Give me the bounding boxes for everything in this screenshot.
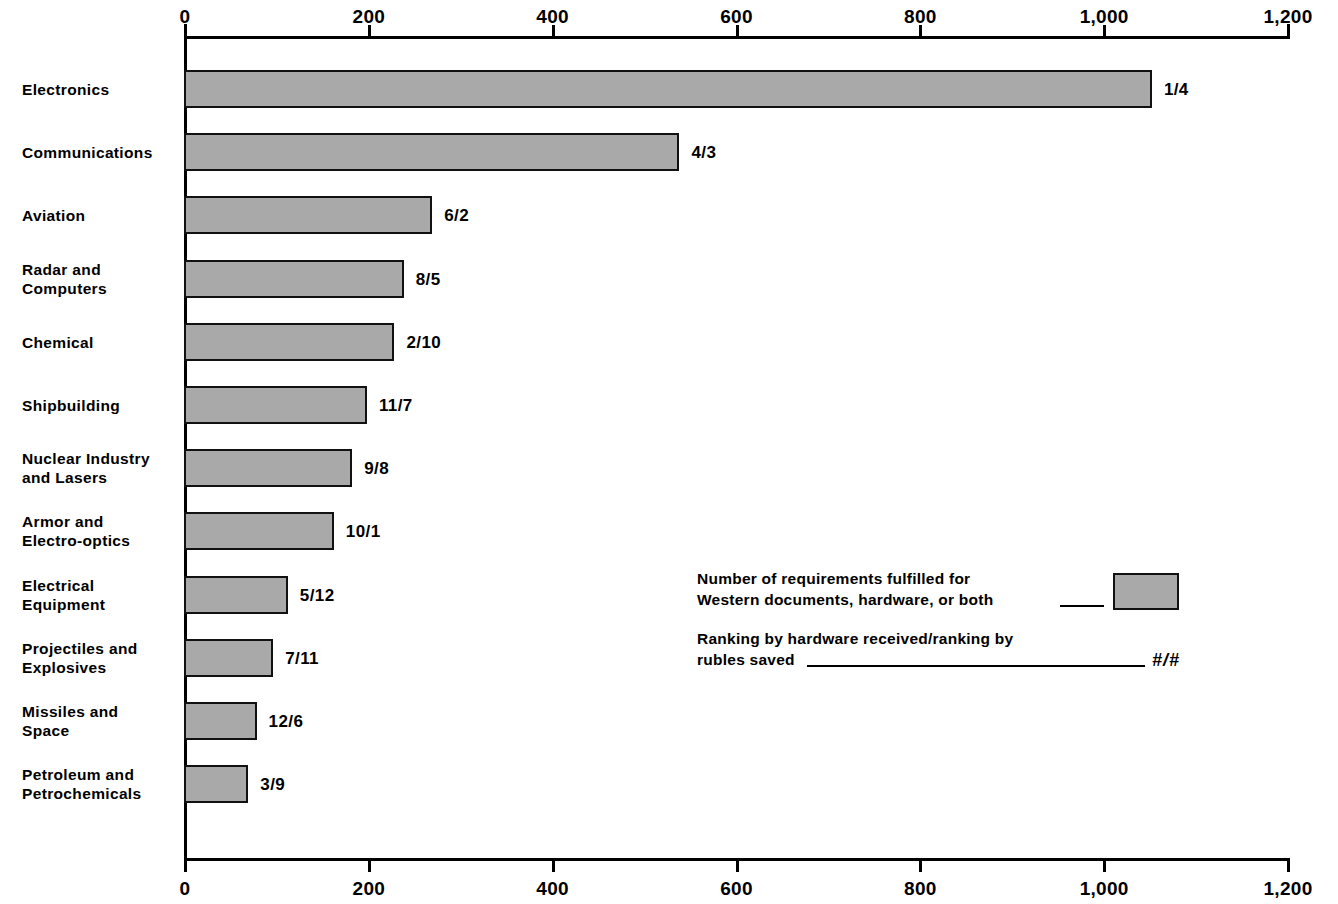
bar-chart: 02004006008001,0001,200 02004006008001,0… [0, 0, 1338, 904]
category-label: Nuclear Industry and Lasers [22, 449, 150, 487]
bar [184, 449, 352, 487]
bar [184, 70, 1152, 108]
bar-row: Shipbuilding11/7 [0, 386, 1338, 424]
legend-leader-line-1 [1060, 605, 1104, 607]
bottom-tick-mark [919, 858, 922, 872]
bottom-tick-label: 800 [904, 878, 937, 900]
category-label: Shipbuilding [22, 396, 120, 415]
legend-entry-ranking: Ranking by hardware received/ranking by … [697, 628, 1197, 670]
category-label: Projectiles and Explosives [22, 639, 138, 677]
bottom-tick-label: 1,200 [1263, 878, 1312, 900]
bar-value-label: 1/4 [1164, 80, 1189, 100]
bottom-axis-left-cap [184, 858, 187, 872]
bottom-tick-mark [368, 858, 371, 872]
category-label: Chemical [22, 333, 94, 352]
bar-row: Communications4/3 [0, 133, 1338, 171]
top-tick-label: 800 [904, 6, 937, 28]
bar [184, 260, 404, 298]
bar-row: Electronics1/4 [0, 70, 1338, 108]
bar-value-label: 6/2 [444, 206, 469, 226]
bar [184, 639, 273, 677]
bar-value-label: 11/7 [379, 396, 413, 416]
bottom-tick-mark [736, 858, 739, 872]
bar [184, 133, 679, 171]
bar [184, 386, 367, 424]
bar [184, 702, 257, 740]
category-label: Electrical Equipment [22, 576, 105, 614]
bar-value-label: 12/6 [269, 712, 304, 732]
bar-row: Nuclear Industry and Lasers9/8 [0, 449, 1338, 487]
bar-row: Petroleum and Petrochemicals3/9 [0, 765, 1338, 803]
bar-row: Radar and Computers8/5 [0, 260, 1338, 298]
legend-swatch-bar [1113, 573, 1179, 610]
bar-value-label: 4/3 [691, 143, 716, 163]
bottom-tick-mark [1103, 858, 1106, 872]
bottom-axis-right-cap [1287, 858, 1290, 872]
bottom-tick-label: 600 [720, 878, 753, 900]
bar [184, 323, 394, 361]
top-tick-label: 0 [180, 6, 191, 28]
category-label: Armor and Electro-optics [22, 512, 130, 550]
bar [184, 576, 288, 614]
category-label: Radar and Computers [22, 260, 107, 298]
bar-row: Aviation6/2 [0, 196, 1338, 234]
bar-row: Chemical2/10 [0, 323, 1338, 361]
bottom-tick-label: 400 [536, 878, 569, 900]
top-tick-label: 1,000 [1080, 6, 1129, 28]
bar-value-label: 9/8 [364, 459, 389, 479]
bottom-tick-label: 0 [180, 878, 191, 900]
bar [184, 196, 432, 234]
bar-value-label: 7/11 [285, 649, 319, 669]
legend-leader-line-2 [807, 665, 1145, 667]
bottom-tick-mark [552, 858, 555, 872]
legend-ranking-symbol: #/# [1152, 650, 1180, 671]
bottom-tick-label: 200 [353, 878, 386, 900]
bar-value-label: 3/9 [260, 775, 285, 795]
top-tick-label: 600 [720, 6, 753, 28]
bar-value-label: 5/12 [300, 586, 335, 606]
top-tick-label: 200 [353, 6, 386, 28]
legend-entry-ranking-label: Ranking by hardware received/ranking by … [697, 628, 1197, 670]
legend-entry-requirements: Number of requirements fulfilled for Wes… [697, 568, 1197, 610]
category-label: Aviation [22, 206, 85, 225]
category-label: Petroleum and Petrochemicals [22, 765, 142, 803]
category-label: Communications [22, 143, 153, 162]
bar-value-label: 2/10 [406, 333, 441, 353]
bottom-tick-label: 1,000 [1080, 878, 1129, 900]
category-label: Missiles and Space [22, 702, 118, 740]
top-tick-label: 400 [536, 6, 569, 28]
bar-value-label: 10/1 [346, 522, 381, 542]
top-tick-label: 1,200 [1263, 6, 1312, 28]
category-label: Electronics [22, 80, 109, 99]
bar-value-label: 8/5 [416, 270, 441, 290]
bar-row: Missiles and Space12/6 [0, 702, 1338, 740]
bar [184, 512, 334, 550]
bar [184, 765, 248, 803]
bar-row: Armor and Electro-optics10/1 [0, 512, 1338, 550]
